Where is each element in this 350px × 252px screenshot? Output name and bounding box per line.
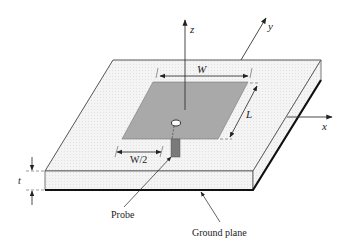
ground-plane-callout-line bbox=[201, 192, 220, 222]
length-label: L bbox=[245, 108, 252, 120]
y-axis bbox=[241, 18, 266, 60]
width-label: W bbox=[197, 63, 207, 75]
patch-antenna-diagram: z y x W L W/2 t Probe Ground plane bbox=[0, 0, 350, 252]
feed-point-icon bbox=[172, 120, 181, 126]
ground-plane-label: Ground plane bbox=[192, 227, 247, 238]
half-width-label: W/2 bbox=[130, 154, 147, 165]
x-axis-label: x bbox=[321, 120, 327, 132]
z-axis-label: z bbox=[189, 23, 195, 35]
probe-label: Probe bbox=[111, 209, 135, 220]
y-axis-label: y bbox=[267, 20, 273, 32]
thickness-label: t bbox=[18, 175, 21, 186]
probe bbox=[171, 139, 180, 157]
